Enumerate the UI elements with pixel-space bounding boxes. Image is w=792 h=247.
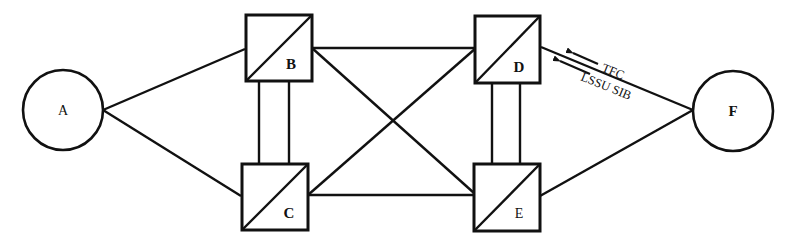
node-c: C bbox=[242, 164, 308, 230]
link-a-c bbox=[103, 110, 241, 196]
node-c-label: C bbox=[284, 205, 295, 221]
node-a-label: A bbox=[58, 103, 69, 118]
link-e-f bbox=[540, 110, 693, 196]
node-e-label: E bbox=[515, 206, 524, 221]
node-b: B bbox=[246, 15, 312, 81]
node-a: A bbox=[23, 70, 103, 150]
link-a-b bbox=[103, 49, 245, 110]
node-b-label: B bbox=[286, 56, 296, 72]
node-d-label: D bbox=[514, 59, 525, 75]
signaling-network-diagram: A F B C D E TFC LSSU SIB bbox=[0, 0, 792, 247]
node-e: E bbox=[474, 164, 540, 231]
node-f-label: F bbox=[728, 103, 737, 119]
node-f: F bbox=[693, 71, 773, 151]
node-d: D bbox=[475, 16, 540, 83]
